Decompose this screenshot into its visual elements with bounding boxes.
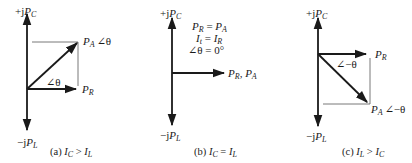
caption-c: (c) IL > IC: [342, 146, 385, 159]
axis-top-label: +jPC: [306, 7, 328, 21]
pa-label: PA∠−θ: [370, 103, 405, 117]
panel-b: +jPC PR = PA It = IR ∠θ = 0° PR, PA −jPL…: [160, 7, 257, 159]
pr-label: PR: [81, 83, 94, 97]
pr-pa-label: PR, PA: [227, 67, 257, 81]
axis-bottom-label: −jPL: [17, 136, 38, 150]
caption-a: (a) IC > IL: [50, 146, 93, 159]
pr-label: PR: [374, 48, 387, 62]
axis-bottom-label: −jPL: [306, 130, 327, 144]
angle-label: ∠θ: [46, 76, 61, 88]
panel-c: +jPC PR ∠−θ PA∠−θ −jPL (c) IL > IC: [306, 7, 405, 159]
axis-bottom-label: −jPL: [160, 129, 181, 143]
pa-label: PA∠θ: [82, 35, 111, 49]
axis-top-label: +jPC: [160, 7, 182, 21]
caption-b: (b) IC = IL: [194, 146, 237, 159]
panel-a: +jPC PA∠θ ∠θ PR −jPL (a) IC > IL: [15, 5, 111, 159]
phasor-diagrams: +jPC PA∠θ ∠θ PR −jPL (a) IC > IL +jPC PR…: [0, 0, 412, 163]
note-angle-zero: ∠θ = 0°: [188, 44, 224, 56]
angle-label: ∠−θ: [336, 58, 357, 70]
axis-top-label: +jPC: [15, 5, 37, 19]
